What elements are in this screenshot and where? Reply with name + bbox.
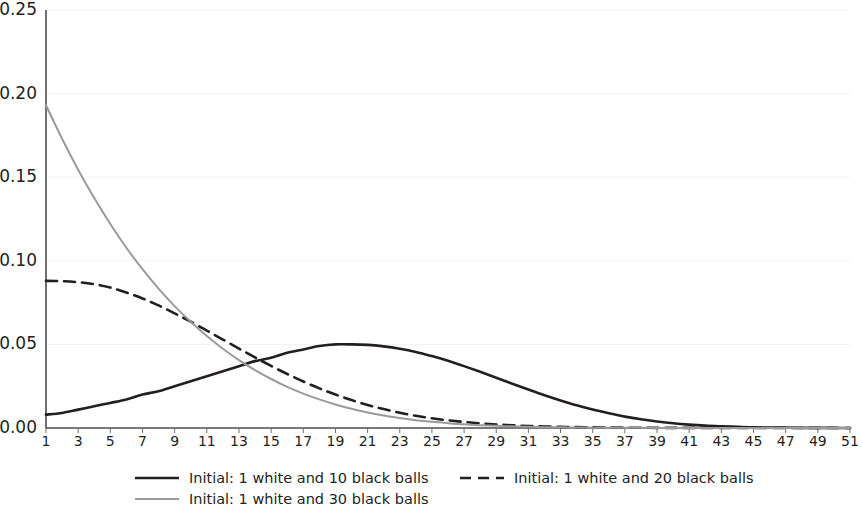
legend-item[interactable]: Initial: 1 white and 20 black balls [460, 470, 754, 486]
x-axis-tick-label: 5 [106, 433, 115, 449]
x-axis-tick-label: 29 [487, 433, 505, 449]
chart-legend: Initial: 1 white and 10 black ballsIniti… [135, 470, 754, 507]
x-axis-tick-label: 13 [230, 433, 248, 449]
x-axis-tick-label: 15 [262, 433, 280, 449]
x-axis-tick-label: 3 [74, 433, 83, 449]
x-axis-tick-label: 27 [455, 433, 473, 449]
x-axis-tick-label: 25 [423, 433, 441, 449]
x-axis-tick-label: 9 [170, 433, 179, 449]
legend-label-3: Initial: 1 white and 30 black balls [189, 491, 429, 507]
y-axis-tick-label: 0.05 [0, 333, 37, 353]
y-axis-tick-labels: 0.000.050.100.150.200.25 [0, 0, 37, 437]
chart-page: 0.000.050.100.150.200.25 135791113151719… [0, 0, 863, 507]
y-axis-tick-label: 0.10 [0, 250, 37, 270]
x-axis-tick-label: 51 [841, 433, 859, 449]
series-line-1 [46, 344, 850, 428]
x-axis-tick-label: 45 [745, 433, 763, 449]
x-axis-tick-label: 31 [519, 433, 537, 449]
gridlines [46, 10, 850, 344]
legend-item[interactable]: Initial: 1 white and 30 black balls [135, 491, 429, 507]
x-axis-tick-label: 1 [42, 433, 51, 449]
x-axis-tick-label: 39 [648, 433, 666, 449]
x-axis-tick-label: 23 [391, 433, 409, 449]
x-axis-tick-label: 11 [198, 433, 216, 449]
series-line-2 [46, 281, 850, 428]
axes [46, 10, 850, 428]
y-axis-tick-label: 0.00 [0, 417, 37, 437]
x-axis-tick-label: 35 [584, 433, 602, 449]
y-axis-tick-label: 0.15 [0, 166, 37, 186]
x-axis-tick-label: 17 [294, 433, 312, 449]
plot-series [46, 105, 850, 428]
x-axis-tick-label: 7 [138, 433, 147, 449]
x-axis-tick-label: 41 [680, 433, 698, 449]
y-axis-tick-label: 0.25 [0, 0, 37, 19]
series-line-3 [46, 105, 850, 428]
x-axis-tick-labels: 1357911131517192123252729313335373941434… [42, 433, 859, 449]
x-axis-tick-label: 43 [712, 433, 730, 449]
x-axis-tick-label: 33 [552, 433, 570, 449]
legend-label-2: Initial: 1 white and 20 black balls [514, 470, 754, 486]
legend-label-1: Initial: 1 white and 10 black balls [189, 470, 429, 486]
axis-lines [46, 10, 850, 428]
x-axis-tick-label: 49 [809, 433, 827, 449]
x-axis-tick-label: 21 [359, 433, 377, 449]
legend-item[interactable]: Initial: 1 white and 10 black balls [135, 470, 429, 486]
x-axis-tick-label: 37 [616, 433, 634, 449]
x-axis-tick-label: 47 [777, 433, 795, 449]
line-chart: 0.000.050.100.150.200.25 135791113151719… [0, 0, 863, 507]
x-axis-tick-label: 19 [327, 433, 345, 449]
y-axis-tick-label: 0.20 [0, 83, 37, 103]
